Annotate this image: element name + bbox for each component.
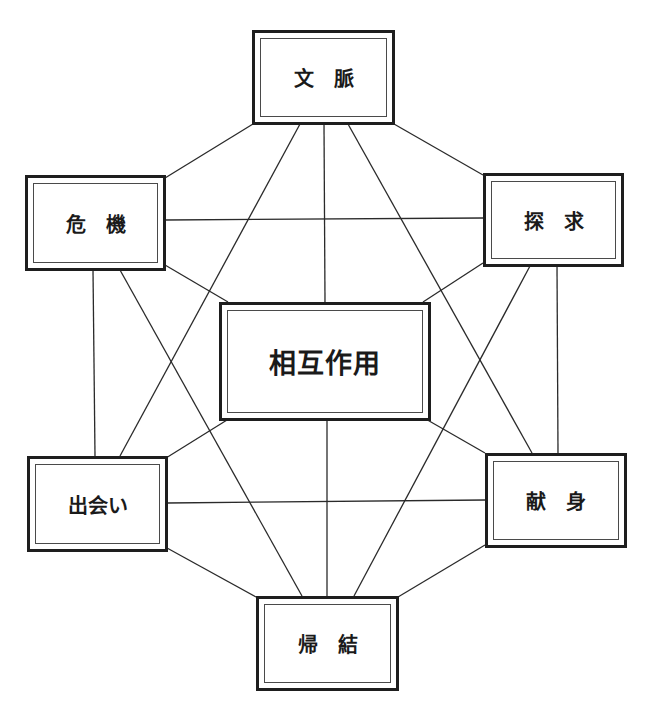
node-consequence-label: 帰 結 [298, 629, 358, 658]
node-crisis: 危 機 [25, 175, 166, 271]
node-encounter-inner-frame: 出会い [35, 464, 160, 544]
edge-interaction-encounter [166, 420, 227, 458]
node-inquiry: 探 求 [483, 173, 624, 267]
node-encounter: 出会い [27, 456, 168, 552]
node-context-inner-frame: 文 脈 [260, 38, 387, 117]
node-crisis-label: 危 機 [66, 209, 126, 238]
edge-inquiry-interaction [423, 263, 483, 302]
node-context-label: 文 脈 [294, 63, 354, 92]
node-encounter-label: 出会い [68, 490, 128, 519]
node-interaction: 相互作用 [219, 302, 431, 421]
node-context: 文 脈 [252, 30, 395, 125]
edge-context-interaction [324, 124, 325, 302]
node-commitment-inner-frame: 献 身 [493, 461, 619, 540]
edge-crisis-encounter [93, 270, 95, 456]
node-crisis-inner-frame: 危 機 [33, 183, 158, 263]
concept-network-diagram: 文 脈 危 機 探 求 相互作用 出会い 献 身 帰 結 [0, 0, 645, 716]
edge-encounter-consequence [167, 548, 256, 597]
node-inquiry-label: 探 求 [524, 206, 584, 235]
edge-crisis-interaction [165, 265, 228, 302]
edge-context-crisis [165, 124, 253, 178]
node-commitment: 献 身 [485, 453, 627, 548]
node-interaction-label: 相互作用 [269, 342, 381, 381]
edge-context-inquiry [394, 124, 483, 175]
edge-inquiry-commitment [557, 266, 558, 453]
edge-commitment-consequence [398, 545, 485, 597]
node-interaction-inner-frame: 相互作用 [227, 310, 423, 413]
node-consequence: 帰 結 [256, 596, 399, 691]
node-commitment-label: 献 身 [526, 486, 586, 515]
node-consequence-inner-frame: 帰 結 [264, 604, 391, 683]
edge-encounter-commitment [167, 500, 485, 503]
node-inquiry-inner-frame: 探 求 [491, 181, 616, 259]
